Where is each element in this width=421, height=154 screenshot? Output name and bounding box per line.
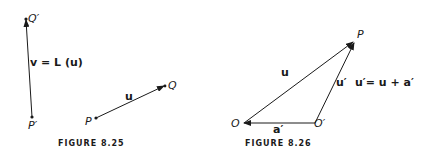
- vector-u-prime-line: [315, 43, 354, 123]
- point-q-dot: [164, 85, 167, 88]
- label-q-prime: Q′: [28, 13, 39, 24]
- label-vector-a-prime: a′: [273, 124, 283, 135]
- label-p-2: P: [357, 29, 364, 40]
- caption-figure-8-25: FIGURE 8.25: [58, 140, 125, 148]
- point-p-dot: [94, 116, 97, 119]
- caption-figure-8-26: FIGURE 8.26: [245, 140, 312, 148]
- equation-u-prime: u′= u + a′: [355, 77, 414, 88]
- label-vector-v-text: v = L (u): [30, 56, 83, 69]
- label-vector-u-prime: u′: [336, 77, 347, 88]
- label-o-prime: O′: [314, 118, 325, 129]
- label-p-prime: P′: [28, 120, 37, 131]
- label-vector-u: u: [125, 91, 133, 102]
- label-vector-v: v = L (u): [30, 57, 83, 68]
- label-q: Q: [168, 80, 177, 91]
- label-vector-u-2: u: [281, 67, 289, 78]
- label-o: O: [231, 118, 240, 129]
- label-p: P: [85, 116, 92, 127]
